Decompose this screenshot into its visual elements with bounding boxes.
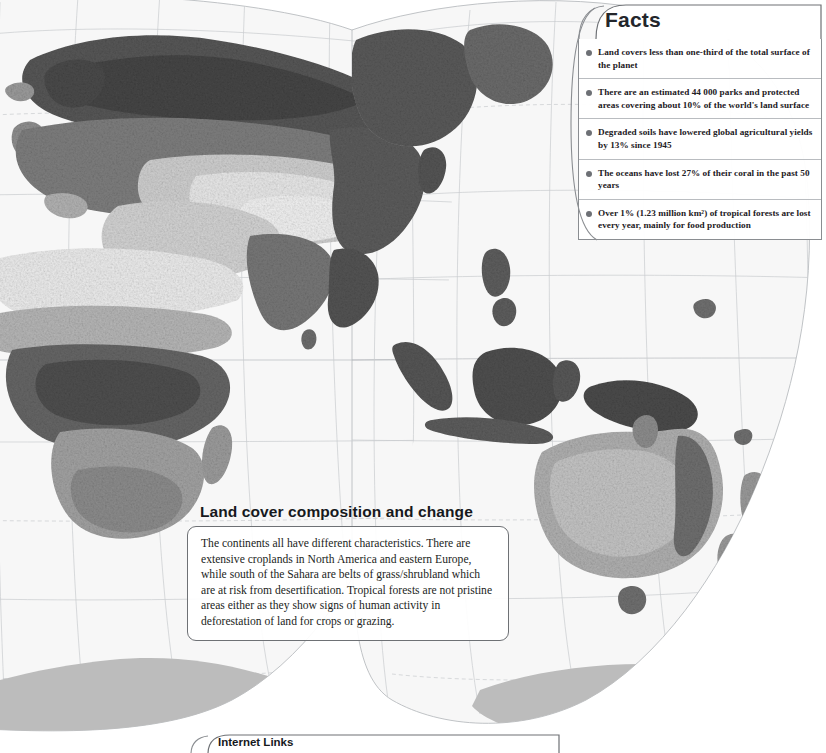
atlas-page: Facts Land covers less than one-third of… — [0, 0, 826, 753]
fact-item: The oceans have lost 27% of their coral … — [579, 160, 821, 200]
fact-text: There are an estimated 44 000 parks and … — [598, 86, 815, 111]
landcover-body-text: The continents all have different charac… — [201, 536, 496, 630]
bullet-icon — [586, 50, 592, 56]
fact-item: Degraded soils have lowered global agric… — [579, 119, 821, 159]
fact-item: Land covers less than one-third of the t… — [579, 39, 821, 79]
facts-panel: Facts Land covers less than one-third of… — [578, 4, 822, 240]
fact-text: Land covers less than one-third of the t… — [598, 46, 815, 71]
bullet-icon — [586, 130, 592, 136]
facts-title: Facts — [605, 8, 661, 32]
tasmania — [618, 586, 646, 614]
bullet-icon — [586, 211, 592, 217]
internet-links-section[interactable]: Internet Links — [190, 733, 560, 753]
bullet-icon — [586, 90, 592, 96]
fact-text: Over 1% (1.23 million km²) of tropical f… — [598, 207, 815, 232]
fact-text: Degraded soils have lowered global agric… — [598, 126, 815, 151]
landcover-textbox: The continents all have different charac… — [187, 526, 509, 641]
bullet-icon — [586, 171, 592, 177]
fact-item: Over 1% (1.23 million km²) of tropical f… — [579, 200, 821, 239]
fact-text: The oceans have lost 27% of their coral … — [598, 167, 815, 192]
fact-item: There are an estimated 44 000 parks and … — [579, 79, 821, 119]
facts-header: Facts — [578, 4, 822, 40]
congo-core — [36, 360, 201, 425]
facts-list: Land covers less than one-third of the t… — [578, 39, 822, 240]
landcover-section: Land cover composition and change The co… — [187, 503, 509, 641]
internet-links-title: Internet Links — [218, 736, 293, 748]
section-title: Land cover composition and change — [200, 503, 509, 521]
